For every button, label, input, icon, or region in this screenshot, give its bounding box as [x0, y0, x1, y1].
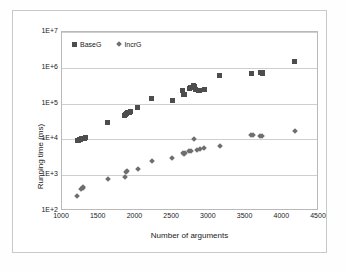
data-point-incrg	[80, 184, 86, 190]
data-point-incrg	[191, 136, 197, 142]
plot-area	[61, 31, 318, 210]
data-point-incrg	[74, 193, 80, 199]
x-tick-label: 4000	[261, 212, 301, 220]
gridline	[62, 32, 317, 33]
data-point-baseg	[83, 135, 88, 140]
data-point-incrg	[169, 155, 175, 161]
y-tick-label: 1E+7	[12, 27, 58, 34]
square-marker-icon	[72, 42, 77, 47]
data-point-incrg	[217, 143, 223, 149]
chart-figure: 1E+21E+31E+41E+51E+61E+7 BaseG IncrG 100…	[0, 0, 346, 272]
data-point-baseg	[105, 120, 110, 125]
data-point-baseg	[260, 71, 265, 76]
gridline	[62, 104, 317, 105]
x-tick-label: 3500	[225, 212, 265, 220]
diamond-marker-icon	[117, 41, 123, 47]
x-axis-title: Number of arguments	[61, 231, 318, 240]
legend-item-incrg: IncrG	[117, 41, 141, 48]
data-point-baseg	[128, 109, 133, 114]
x-tick-label: 2500	[151, 212, 191, 220]
data-point-baseg	[217, 73, 222, 78]
gridline	[62, 175, 317, 176]
x-tick-label: 1000	[41, 212, 81, 220]
y-axis-title-wrap: Running time (ms)	[17, 60, 31, 180]
x-tick-label: 3000	[188, 212, 228, 220]
data-point-incrg	[122, 174, 128, 180]
y-axis-title: Running time (ms)	[36, 87, 45, 227]
data-point-incrg	[135, 166, 141, 172]
data-point-incrg	[124, 168, 130, 174]
data-point-baseg	[182, 92, 187, 97]
data-point-incrg	[292, 128, 298, 134]
x-tick-label: 4500	[298, 212, 338, 220]
x-tick-label: 2000	[114, 212, 154, 220]
legend-item-baseg: BaseG	[72, 41, 101, 48]
data-point-baseg	[149, 96, 154, 101]
legend-label-incrg: IncrG	[124, 41, 141, 48]
data-point-baseg	[135, 105, 140, 110]
gridline	[62, 139, 317, 140]
data-point-baseg	[202, 87, 207, 92]
data-point-incrg	[149, 158, 155, 164]
data-point-incrg	[202, 146, 208, 152]
chart-legend: BaseG IncrG	[72, 38, 142, 50]
x-axis-tick-labels: 10001500200025003000350040004500	[61, 212, 318, 224]
data-point-baseg	[292, 59, 297, 64]
gridline	[62, 68, 317, 69]
legend-label-baseg: BaseG	[80, 41, 101, 48]
data-point-baseg	[170, 98, 175, 103]
data-point-incrg	[105, 177, 111, 183]
x-tick-label: 1500	[78, 212, 118, 220]
data-point-baseg	[249, 71, 254, 76]
